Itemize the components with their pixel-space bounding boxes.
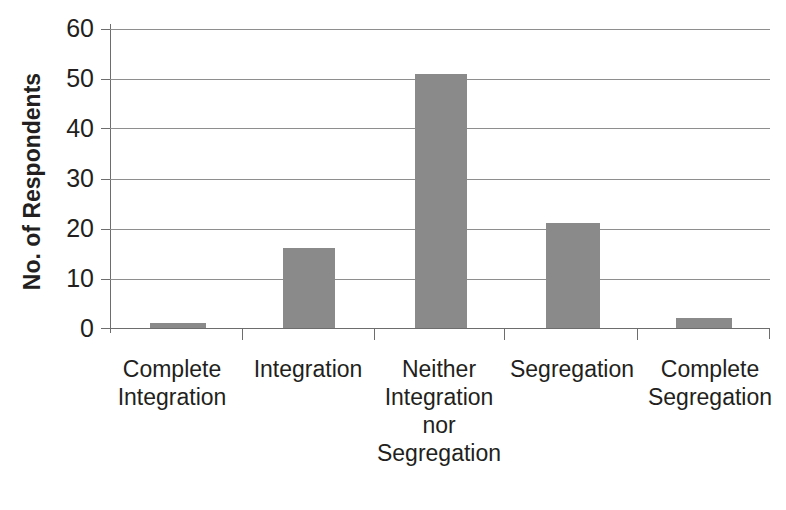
- x-tick-4: [637, 329, 638, 340]
- bar-complete-integration: [150, 323, 206, 328]
- plot-area: [110, 29, 770, 328]
- gridline-60: [110, 29, 770, 30]
- x-label-integration: Integration: [242, 355, 374, 383]
- y-tick-mark-0: [101, 328, 110, 329]
- y-tick-label-30: 30: [42, 166, 94, 191]
- y-tick-label-40: 40: [42, 116, 94, 141]
- x-axis-right-end-tick: [769, 328, 770, 339]
- y-tick-label-10: 10: [42, 266, 94, 291]
- bar-chart: No. of Respondents 60 50 40 30 20 10 0 C…: [0, 0, 786, 510]
- x-tick-1: [242, 329, 243, 340]
- bar-integration: [283, 248, 335, 328]
- x-label-complete-integration: Complete Integration: [104, 355, 240, 411]
- y-tick-mark-30: [101, 179, 110, 180]
- x-axis-baseline: [110, 328, 770, 329]
- bar-segregation: [546, 223, 600, 328]
- x-label-neither-integration-nor-segregation: Neither Integration nor Segregation: [373, 355, 505, 467]
- y-tick-mark-40: [101, 128, 110, 129]
- x-label-segregation: Segregation: [504, 355, 640, 383]
- x-tick-2: [374, 329, 375, 340]
- y-tick-mark-60: [101, 29, 110, 30]
- x-label-complete-segregation: Complete Segregation: [640, 355, 780, 411]
- y-tick-mark-10: [101, 279, 110, 280]
- x-tick-3: [504, 329, 505, 340]
- y-tick-label-0: 0: [42, 316, 94, 341]
- bar-complete-segregation: [676, 318, 732, 328]
- y-tick-label-20: 20: [42, 216, 94, 241]
- y-tick-label-50: 50: [42, 66, 94, 91]
- y-tick-mark-20: [101, 229, 110, 230]
- bar-neither-integration-nor-segregation: [415, 74, 467, 328]
- y-tick-mark-50: [101, 79, 110, 80]
- y-tick-label-60: 60: [42, 16, 94, 41]
